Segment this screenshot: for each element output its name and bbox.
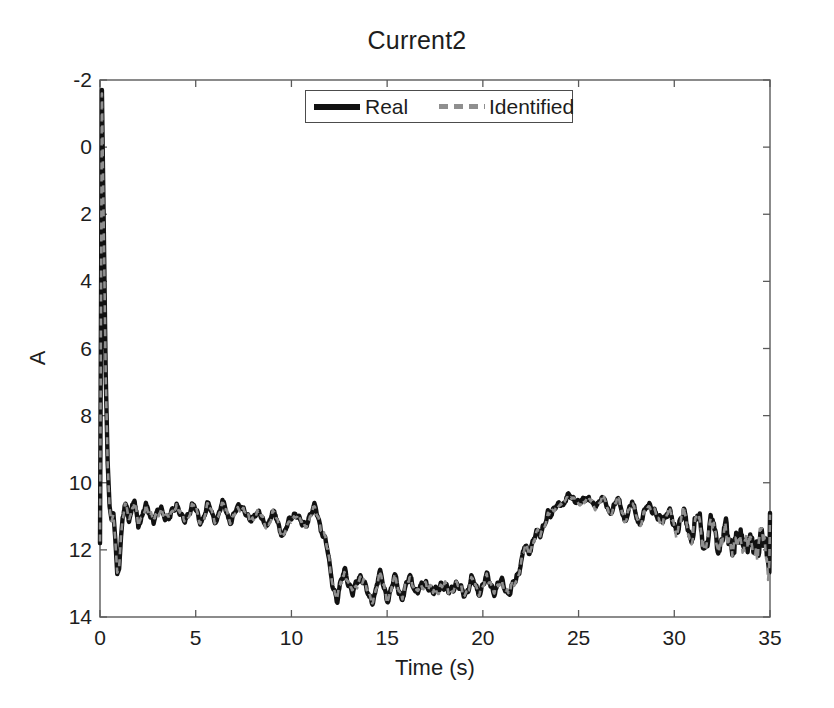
y-tick-label: -2 bbox=[30, 68, 92, 92]
x-tick-label: 25 bbox=[567, 626, 590, 650]
x-tick-label: 30 bbox=[663, 626, 686, 650]
legend-label-real: Real bbox=[365, 96, 408, 117]
x-tick-label: 20 bbox=[471, 626, 494, 650]
x-tick-label: 5 bbox=[190, 626, 202, 650]
legend-swatch-dashed-icon bbox=[439, 104, 485, 109]
legend-swatch-solid-icon bbox=[314, 104, 360, 110]
series-line-real bbox=[100, 90, 770, 605]
y-tick-label: 10 bbox=[30, 471, 92, 495]
x-tick-label: 15 bbox=[375, 626, 398, 650]
y-tick-label: 8 bbox=[30, 404, 92, 428]
y-tick-label: 0 bbox=[30, 135, 92, 159]
legend-label-identified: Identified bbox=[489, 96, 574, 117]
x-tick-label: 10 bbox=[280, 626, 303, 650]
legend: Real Identified bbox=[305, 90, 573, 123]
y-tick-label: 4 bbox=[30, 269, 92, 293]
axes-frame bbox=[100, 80, 770, 617]
y-tick-label: 12 bbox=[30, 538, 92, 562]
y-tick-label: 2 bbox=[30, 202, 92, 226]
legend-item-identified: Identified bbox=[439, 91, 574, 122]
series-line-identified bbox=[100, 93, 770, 604]
y-tick-label: 14 bbox=[30, 605, 92, 629]
x-tick-label: 35 bbox=[758, 626, 781, 650]
legend-item-real: Real bbox=[314, 91, 408, 122]
figure-container: Current2 A Time (s) 14121086420-2 051015… bbox=[0, 0, 834, 708]
x-axis-label: Time (s) bbox=[100, 655, 770, 681]
x-tick-label: 0 bbox=[94, 626, 106, 650]
y-tick-label: 6 bbox=[30, 337, 92, 361]
